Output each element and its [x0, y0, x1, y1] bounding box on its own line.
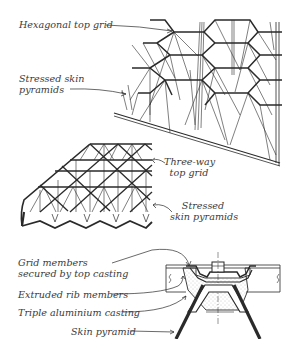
label-text: pyramids: [19, 84, 84, 95]
label-stressed-skin-pyramids-2: Stressed skin pyramids: [170, 200, 236, 222]
three-way-grid-diagonals: [40, 144, 152, 212]
label-text: Grid members: [18, 257, 128, 268]
label-hexagonal-top-grid: Hexagonal top grid: [19, 19, 113, 30]
label-text: Hexagonal top grid: [19, 19, 113, 30]
three-way-pyramid-struts: [30, 144, 148, 212]
node-section-detail: [112, 249, 280, 339]
label-text: top grid: [164, 167, 214, 178]
three-way-space-frame: [21, 144, 172, 228]
label-text: Stressed skin: [19, 73, 84, 84]
label-text: Extruded rib members: [18, 289, 128, 300]
label-text: Triple aluminium casting: [18, 307, 140, 318]
label-text: secured by top casting: [18, 268, 128, 279]
label-grid-members-secured: Grid members secured by top casting: [18, 257, 128, 279]
diagram-figure: Hexagonal top grid Stressed skin pyramid…: [0, 0, 296, 339]
label-three-way-top-grid: Three-way top grid: [164, 156, 214, 178]
label-skin-pyramid: Skin pyramid: [71, 326, 136, 337]
label-text: Skin pyramid: [71, 326, 136, 337]
label-extruded-rib-members: Extruded rib members: [18, 289, 128, 300]
label-stressed-skin-pyramids: Stressed skin pyramids: [19, 73, 84, 95]
label-text: Stressed: [170, 200, 236, 211]
label-text: skin pyramids: [170, 211, 236, 222]
label-triple-aluminium-casting: Triple aluminium casting: [18, 307, 140, 318]
frame-right-edge: [276, 22, 279, 166]
label-text: Three-way: [164, 156, 214, 167]
